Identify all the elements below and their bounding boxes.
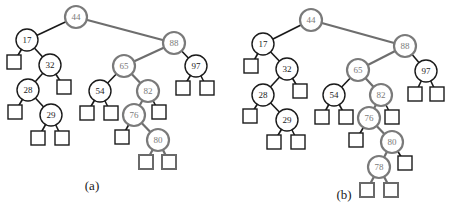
external-node — [176, 81, 190, 95]
tree-node-32: 32 — [276, 58, 298, 80]
tree-node-76: 76 — [358, 107, 380, 129]
binary-search-tree-figure: 441732282988655482768097 (a) 44173228298… — [0, 0, 449, 206]
tree-node-44: 44 — [300, 9, 322, 31]
tree-node-78: 78 — [368, 156, 390, 178]
external-node — [385, 110, 399, 124]
node-key: 97 — [192, 61, 202, 71]
tree-node-44: 44 — [65, 6, 87, 28]
node-key: 32 — [283, 64, 292, 74]
external-node — [104, 106, 118, 120]
tree-node-28: 28 — [17, 79, 39, 101]
external-node — [408, 87, 422, 101]
tree-a: 441732282988655482768097 (a) — [7, 6, 214, 193]
tree-node-80: 80 — [147, 129, 169, 151]
tree-node-76: 76 — [123, 104, 145, 126]
node-key: 44 — [307, 15, 317, 25]
external-node — [55, 131, 69, 145]
tree-node-80: 80 — [381, 131, 403, 153]
tree-node-97: 97 — [415, 60, 437, 82]
tree-node-54: 54 — [89, 80, 111, 102]
node-key: 88 — [170, 38, 180, 48]
tree-node-65: 65 — [113, 55, 135, 77]
node-key: 17 — [23, 35, 33, 45]
external-node — [293, 84, 307, 98]
external-node — [8, 105, 22, 119]
node-key: 54 — [330, 90, 340, 100]
node-key: 82 — [377, 90, 386, 100]
external-node — [398, 156, 412, 170]
tree-node-17: 17 — [16, 29, 38, 51]
caption-b: (b) — [336, 187, 351, 202]
tree-edge — [311, 20, 405, 46]
tree-node-29: 29 — [276, 109, 298, 131]
node-key: 54 — [96, 86, 106, 96]
node-key: 28 — [259, 90, 269, 100]
node-key: 80 — [388, 137, 398, 147]
node-key: 65 — [120, 61, 130, 71]
node-key: 78 — [375, 162, 385, 172]
external-node — [31, 131, 45, 145]
external-node — [339, 110, 353, 124]
external-node — [57, 80, 71, 94]
external-node — [7, 55, 21, 69]
tree-node-54: 54 — [323, 84, 345, 106]
external-node — [384, 183, 398, 197]
external-node — [267, 135, 281, 149]
node-key: 17 — [259, 39, 269, 49]
node-key: 65 — [354, 65, 364, 75]
external-node — [152, 105, 166, 119]
node-key: 88 — [401, 41, 411, 51]
external-node — [360, 183, 374, 197]
external-node — [315, 110, 329, 124]
tree-node-88: 88 — [394, 35, 416, 57]
node-key: 29 — [47, 110, 57, 120]
node-key: 80 — [154, 135, 164, 145]
external-node — [430, 87, 444, 101]
node-key: 44 — [72, 12, 82, 22]
external-node — [244, 59, 258, 73]
external-node — [349, 133, 363, 147]
tree-node-17: 17 — [252, 33, 274, 55]
node-key: 32 — [46, 60, 55, 70]
tree-node-29: 29 — [40, 104, 62, 126]
tree-node-32: 32 — [39, 54, 61, 76]
node-key: 76 — [130, 110, 140, 120]
tree-node-82: 82 — [137, 80, 159, 102]
external-node — [115, 130, 129, 144]
external-node — [162, 155, 176, 169]
node-key: 29 — [283, 115, 293, 125]
caption-a: (a) — [85, 178, 99, 193]
node-key: 97 — [422, 66, 432, 76]
node-key: 28 — [24, 85, 34, 95]
tree-node-88: 88 — [163, 32, 185, 54]
external-node — [291, 135, 305, 149]
external-node — [243, 109, 257, 123]
node-key: 76 — [365, 113, 375, 123]
external-node — [200, 81, 214, 95]
tree-node-82: 82 — [370, 84, 392, 106]
tree-edge — [76, 17, 174, 43]
tree-b-leaves — [243, 59, 444, 197]
external-node — [139, 155, 153, 169]
tree-node-65: 65 — [347, 59, 369, 81]
tree-node-97: 97 — [185, 55, 207, 77]
tree-node-28: 28 — [252, 84, 274, 106]
external-node — [80, 106, 94, 120]
tree-a-leaves — [7, 55, 214, 169]
node-key: 82 — [144, 86, 153, 96]
tree-b: 44173228298865548276807897 (b) — [243, 9, 444, 202]
